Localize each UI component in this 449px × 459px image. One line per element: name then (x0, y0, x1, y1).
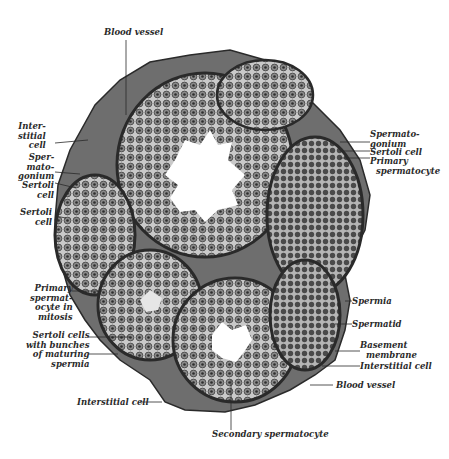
label-spermatogonium-left: Sper- mato- gonium (18, 153, 54, 182)
tubule-bottom-right (270, 260, 340, 370)
label-blood-vessel-top: Blood vessel (104, 28, 163, 38)
label-interstitial-cell-bottom: Interstitial cell (77, 398, 149, 408)
label-secondary-spermatocyte: Secondary spermatocyte (212, 430, 329, 440)
label-spermatid: Spermatid (352, 320, 402, 330)
label-interstitial-cell-right: Interstitial cell (360, 362, 432, 372)
histology-figure: Blood vessel Inter- stitial cell Sper- m… (0, 0, 449, 459)
label-blood-vessel-bottom: Blood vessel (336, 381, 395, 391)
label-interstitial-cell-left: Inter- stitial cell (18, 122, 46, 151)
label-spermia: Spermia (352, 297, 392, 307)
label-sertoli-cells-bunches: Sertoli cells with bunches of maturing s… (26, 331, 89, 369)
label-sertoli-cell-left-1: Sertoli cell (22, 181, 54, 200)
label-primary-spermatocyte-right: Primary spermatocyte (370, 157, 440, 176)
label-sertoli-cell-left-2: Sertoli cell (20, 208, 52, 227)
label-basement-membrane: Basement membrane (360, 341, 417, 360)
label-primary-spermatocyte-mitosis: Primary spermat- ocyte in mitosis (30, 284, 73, 322)
